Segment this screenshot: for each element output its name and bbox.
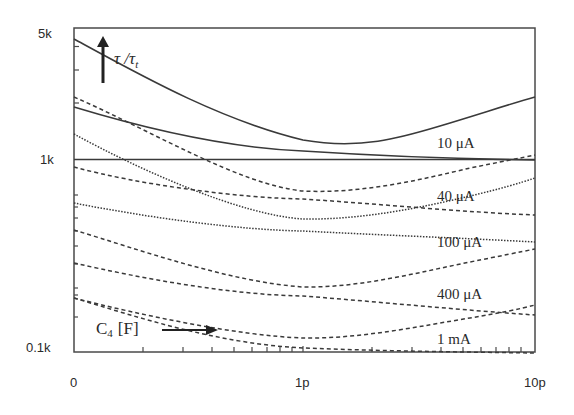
label-400ua: 400 μA [437,286,482,302]
curve-10ua-fall [74,107,535,160]
x-tick-0: 0 [70,375,77,390]
x-tick-10p: 10p [524,375,546,390]
svg-text:C4[F]: C4[F] [96,319,139,339]
right-arrowhead-icon [206,325,218,335]
up-arrowhead-icon [97,36,109,47]
svg-text:τ /τt: τ /τt [114,49,139,70]
curve-10ua-rise [74,39,535,144]
y-tick-0-1k: 0.1k [26,340,51,355]
x-tick-1p: 1p [295,375,309,390]
chart-canvas: 5k 1k 0.1k 0 1p 10p τ /τt C4[F] 10 μA 40… [0,0,574,415]
y-tick-5k: 5k [38,26,52,41]
y-axis-title: τ /τt [97,36,139,83]
label-100ua: 100 μA [437,234,482,250]
label-10ua: 10 μA [437,135,475,151]
label-1ma: 1 mA [437,331,471,347]
label-40ua: 40 μA [437,188,475,204]
y-tick-1k: 1k [40,152,54,167]
